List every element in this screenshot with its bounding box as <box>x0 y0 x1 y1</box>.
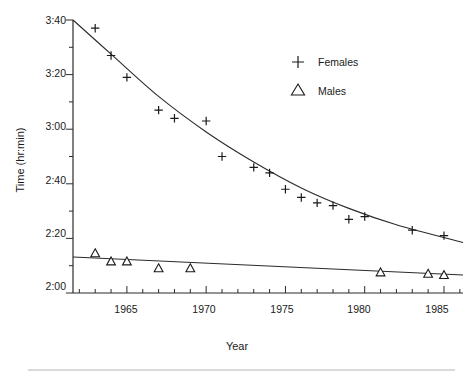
y-tick-label: 2:20 <box>46 227 67 239</box>
x-axis-ticks <box>79 286 459 293</box>
x-axis-title: Year <box>226 340 249 352</box>
females-data-points <box>91 24 448 240</box>
triangle-marker-icon <box>291 84 304 95</box>
males-data-points <box>91 249 449 279</box>
females-fit-curve <box>73 20 463 243</box>
females-point <box>91 24 99 32</box>
females-point <box>297 193 305 201</box>
x-tick-label: 1975 <box>270 303 294 315</box>
females-point <box>218 152 226 160</box>
females-point <box>250 163 258 171</box>
females-point <box>154 106 162 114</box>
females-point <box>170 114 178 122</box>
males-point <box>154 264 163 272</box>
x-tick-label: 1985 <box>425 303 449 315</box>
marathon-times-chart: Time (hr:min) 3:40 3:20 3:00 2:40 2:20 2… <box>0 0 475 376</box>
females-point <box>281 185 289 193</box>
females-point <box>313 199 321 207</box>
females-point <box>107 51 115 59</box>
x-tick-label: 1965 <box>114 303 138 315</box>
females-point <box>123 73 131 81</box>
legend-label-females: Females <box>318 56 358 68</box>
y-tick-label: 3:20 <box>46 67 67 79</box>
x-tick-label: 1970 <box>192 303 216 315</box>
y-axis-title: Time (hr:min) <box>14 128 26 193</box>
females-point <box>408 226 416 234</box>
legend-entry-males: Males <box>291 84 346 97</box>
legend: Females Males <box>291 56 358 97</box>
y-tick-label: 3:00 <box>46 120 67 132</box>
y-axis-ticks <box>66 20 73 293</box>
y-tick-label: 2:40 <box>46 174 67 186</box>
y-tick-label: 3:40 <box>46 14 67 26</box>
y-axis-tick-labels: 3:40 3:20 3:00 2:40 2:20 2:00 <box>46 14 67 292</box>
males-point <box>186 264 195 272</box>
males-point <box>376 268 385 276</box>
plus-marker-icon <box>292 56 304 68</box>
legend-entry-females: Females <box>292 56 358 68</box>
males-point <box>123 257 132 265</box>
x-tick-label: 1980 <box>347 303 371 315</box>
x-axis-tick-labels: 1965 1970 1975 1980 1985 <box>114 303 449 315</box>
males-point <box>91 249 100 257</box>
females-point <box>202 117 210 125</box>
females-point <box>345 215 353 223</box>
legend-label-males: Males <box>318 85 346 97</box>
males-fit-line <box>73 257 463 275</box>
y-tick-label: 2:00 <box>46 280 67 292</box>
